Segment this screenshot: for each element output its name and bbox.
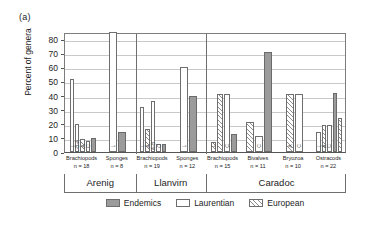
legend-label-european: European (267, 198, 304, 208)
bar-group: LC (206, 34, 241, 152)
bar-laurentian: C (156, 144, 160, 152)
bar-annotation: L (316, 145, 322, 148)
y-axis-tick-label: 0 (53, 148, 61, 158)
bar-group: C (241, 34, 276, 152)
bar-endemics (333, 93, 337, 152)
bar-laurentian: L (109, 32, 117, 152)
bar-annotation: A (287, 144, 293, 147)
bar-group: L (100, 34, 135, 152)
bar-endemics (91, 138, 95, 152)
bar-group: LAC (312, 34, 347, 152)
legend-item-laurentian: Laurentian (176, 198, 234, 208)
bar-laurentian: L (316, 132, 320, 152)
taxon-sample-size: n = 18 (64, 163, 99, 171)
bar-european: A (80, 139, 84, 152)
bar-european (217, 94, 223, 152)
bar-annotation: A-B (150, 142, 156, 150)
bar-endemics (231, 134, 237, 152)
bars-layer: LL-B-AACLLAA-BCLLCCACLAC (65, 34, 345, 152)
taxon-label: Brachiopodsn = 15 (205, 155, 240, 170)
legend-item-endemics: Endemics (106, 198, 161, 208)
bar-annotation: C (296, 144, 302, 148)
y-axis-tick-label: 80 (49, 35, 61, 45)
bar-laurentian: L (180, 67, 188, 152)
legend-swatch-laurentian (176, 199, 190, 207)
bar-group: AC (277, 34, 312, 152)
taxon-name: Ostracods (316, 155, 342, 161)
y-axis-tick-label: 30 (49, 105, 61, 115)
bar-annotation: L (69, 145, 75, 148)
stage-divider (206, 34, 207, 154)
y-axis-tick-label: 10 (49, 133, 61, 143)
taxon-sample-size: n = 11 (240, 163, 275, 171)
y-axis-tick-label: 40 (49, 91, 61, 101)
taxon-label: Spongesn = 8 (99, 155, 134, 170)
bar-laurentian: C (224, 94, 230, 152)
y-axis-ticks: 01020304050607080 (0, 33, 64, 153)
bar-laurentian: C (327, 125, 331, 152)
bar-annotation: L (139, 145, 145, 148)
bar-group: L (171, 34, 206, 152)
bar-european (338, 118, 342, 152)
stage-label-band: ArenigLlanvirnCaradoc (64, 174, 346, 193)
stage-label: Caradoc (206, 177, 347, 188)
plot-area: LL-B-AACLLAA-BCLLCCACLAC (64, 33, 346, 153)
bar-annotation: C (326, 144, 332, 148)
taxon-label: Bryozoan = 10 (276, 155, 311, 170)
bar-endemics (189, 96, 197, 152)
bar-laurentian: L (70, 79, 74, 152)
bar-annotation: C (156, 144, 162, 148)
taxon-name: Sponges (106, 155, 128, 161)
taxon-label: Brachiopodsn = 18 (64, 155, 99, 170)
y-axis-tick-label: 70 (49, 49, 61, 59)
legend-label-endemics: Endemics (124, 198, 161, 208)
taxon-label: Bivalvesn = 11 (240, 155, 275, 170)
taxon-name: Bivalves (247, 155, 268, 161)
taxon-sample-size: n = 15 (205, 163, 240, 171)
taxon-name: Bryozoa (283, 155, 304, 161)
bar-annotation: A (80, 144, 86, 147)
bar-annotation: L (181, 145, 187, 148)
taxon-label: Spongesn = 12 (170, 155, 205, 170)
bar-annotation: A (145, 144, 151, 147)
bar-annotation: L (110, 145, 116, 148)
bar-laurentian: L-B-A (75, 124, 79, 152)
taxon-sample-size: n = 22 (311, 163, 346, 171)
bar-group: LAA-BC (136, 34, 171, 152)
stage-divider (136, 34, 137, 154)
bar-laurentian: L (140, 107, 144, 152)
taxon-name: Brachiopods (66, 155, 97, 161)
taxon-sample-size: n = 10 (276, 163, 311, 171)
stage-label: Llanvirn (136, 177, 207, 188)
bar-laurentian: A-B (151, 101, 155, 152)
bar-endemics (162, 144, 166, 152)
bar-european (246, 122, 254, 152)
chart-legend: EndemicsLaurentianEuropean (64, 198, 346, 208)
taxon-name: Brachiopods (207, 155, 238, 161)
taxon-sample-size: n = 12 (170, 163, 205, 171)
bar-annotation: L-B-A (74, 140, 80, 153)
bar-european: L (211, 142, 217, 152)
taxon-name: Brachiopods (137, 155, 168, 161)
taxon-label-band: Brachiopodsn = 18Spongesn = 8Brachiopods… (64, 153, 346, 174)
taxon-label: Ostracodsn = 22 (311, 155, 346, 170)
y-axis-tick-label: 20 (49, 119, 61, 129)
legend-swatch-european (249, 199, 263, 207)
bar-european: A (145, 129, 149, 152)
y-axis-tick-label: 60 (49, 63, 61, 73)
taxon-sample-size: n = 8 (99, 163, 134, 171)
bar-endemics (264, 52, 272, 152)
legend-label-laurentian: Laurentian (194, 198, 234, 208)
taxon-label: Brachiopodsn = 19 (135, 155, 170, 170)
figure-panel-a: (a) Percent of genera 01020304050607080 … (0, 0, 366, 227)
legend-item-european: European (249, 198, 304, 208)
stage-label: Arenig (65, 177, 136, 188)
bar-annotation: C (224, 144, 230, 148)
bar-european: A (286, 94, 294, 152)
y-axis-tick-label: 50 (49, 77, 61, 87)
taxon-name: Sponges (176, 155, 198, 161)
bar-group: LL-B-AAC (65, 34, 100, 152)
bar-annotation: C (256, 144, 262, 148)
bar-annotation: A (321, 144, 327, 147)
bar-laurentian: C (86, 141, 90, 152)
